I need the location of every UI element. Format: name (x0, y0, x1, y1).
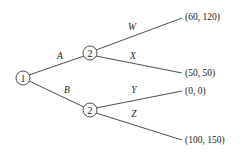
edge-W (96, 18, 182, 50)
edge-label-A: A (56, 51, 63, 61)
edge-Z (96, 113, 182, 140)
edge-label-Z: Z (131, 109, 137, 119)
edge-X (96, 56, 182, 73)
edge-label-X: X (129, 51, 137, 61)
node-label: 2 (88, 105, 93, 116)
edge-B (29, 81, 84, 107)
node-player-2-bottom: 2 (83, 103, 97, 117)
payoff-Z: (100, 150) (185, 135, 225, 146)
node-label: 1 (21, 73, 26, 84)
edge-label-B: B (64, 85, 70, 95)
node-player-1-root: 1 (16, 71, 30, 85)
payoff-W: (60, 120) (185, 12, 220, 23)
payoff-Y: (0, 0) (185, 86, 206, 97)
node-player-2-top: 2 (83, 46, 97, 60)
game-tree: A B W X Y Z 1 2 2 (60, 120) (50, 50) (0,… (0, 0, 243, 152)
edge-label-Y: Y (131, 85, 138, 95)
payoff-X: (50, 50) (185, 68, 215, 79)
edge-Y (96, 91, 182, 108)
edge-label-W: W (128, 22, 137, 32)
node-label: 2 (88, 48, 93, 59)
